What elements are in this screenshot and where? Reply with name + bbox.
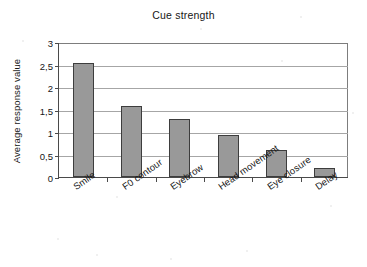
scan-speck xyxy=(352,112,354,114)
bar xyxy=(121,106,142,177)
x-axis-tick xyxy=(301,177,302,182)
plot-top-border xyxy=(59,43,348,44)
scan-speck xyxy=(281,60,283,62)
x-axis-labels: SmileF0 contourEyebrowHead movementEye c… xyxy=(58,183,348,267)
scan-speck xyxy=(96,254,98,256)
y-axis-tick-label: 1 xyxy=(48,128,53,139)
y-axis-tick-label: 2 xyxy=(48,83,53,94)
scan-speck xyxy=(246,250,248,252)
scan-speck xyxy=(170,258,172,260)
scan-speck xyxy=(330,205,332,207)
gridline xyxy=(59,133,348,134)
y-axis-title: Average response value xyxy=(11,58,22,162)
bar-chart: Cue strength Average response value 00,5… xyxy=(0,0,367,267)
scan-speck xyxy=(200,28,202,30)
y-axis-tick xyxy=(55,156,59,157)
gridline xyxy=(59,111,348,112)
scan-speck xyxy=(300,16,302,18)
y-axis-tick xyxy=(55,111,59,112)
scan-speck xyxy=(22,40,24,42)
y-axis-tick xyxy=(55,133,59,134)
y-axis-tick xyxy=(55,43,59,44)
gridline xyxy=(59,88,348,89)
x-axis-tick xyxy=(252,177,253,182)
scan-speck xyxy=(14,120,16,122)
y-axis-tick xyxy=(55,88,59,89)
x-axis-tick xyxy=(156,177,157,182)
y-axis-tick xyxy=(55,178,59,179)
x-axis-tick xyxy=(204,177,205,182)
y-axis-tick-label: 0,5 xyxy=(40,150,53,161)
y-axis-tick-label: 2,5 xyxy=(40,60,53,71)
scan-speck xyxy=(57,238,59,240)
bar xyxy=(73,63,94,177)
y-axis-tick-label: 0 xyxy=(48,173,53,184)
scan-speck xyxy=(116,196,118,198)
y-axis-tick-label: 3 xyxy=(48,38,53,49)
y-axis-tick xyxy=(55,66,59,67)
gridline xyxy=(59,66,348,67)
y-axis-tick-label: 1,5 xyxy=(40,105,53,116)
y-axis-title-container: Average response value xyxy=(9,43,23,178)
chart-title: Cue strength xyxy=(0,9,367,21)
x-axis-tick xyxy=(107,177,108,182)
